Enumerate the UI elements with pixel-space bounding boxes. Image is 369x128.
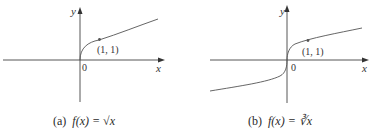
panel-a-sqrt-graph: y x 0 (1, 1) (a) f(x) = √x: [3, 5, 165, 128]
point-label: (1, 1): [302, 46, 324, 58]
caption-a: (a) f(x) = √x: [53, 114, 116, 128]
point-label: (1, 1): [97, 44, 119, 56]
caption-prefix: (b): [248, 114, 262, 128]
y-axis-arrow-icon: [285, 5, 290, 12]
caption-b: (b) f(x) = ∛x: [248, 113, 313, 128]
x-axis-label: x: [155, 62, 161, 74]
caption-radical: ∛x: [299, 113, 313, 128]
cbrt-curve: [210, 28, 362, 91]
origin-label: 0: [82, 62, 87, 73]
point-1-1: [98, 38, 101, 41]
caption-prefix: (a): [53, 114, 66, 128]
y-axis-label: y: [279, 5, 285, 17]
y-axis-arrow-icon: [78, 7, 83, 14]
x-axis-label: x: [361, 62, 367, 74]
caption-radical: √x: [103, 114, 116, 128]
y-axis-label: y: [70, 5, 76, 17]
sqrt-curve: [80, 19, 158, 60]
caption-function: f(x) =: [268, 114, 299, 128]
origin-label: 0: [291, 62, 296, 73]
function-graphs-figure: y x 0 (1, 1) (a) f(x) = √x y x 0 (1, 1) …: [0, 0, 369, 128]
caption-function: f(x) =: [72, 114, 103, 128]
panel-b-cbrt-graph: y x 0 (1, 1) (b) f(x) = ∛x: [210, 5, 369, 128]
point-1-1: [307, 39, 310, 42]
